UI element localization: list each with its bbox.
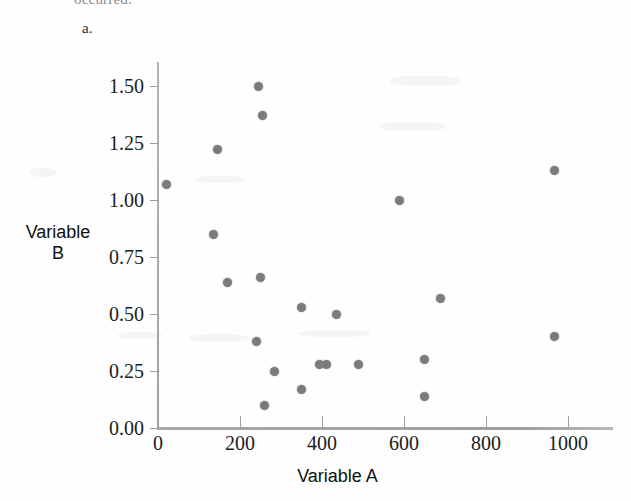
data-point — [260, 401, 269, 410]
x-tick-label: 200 — [205, 432, 275, 455]
x-tick-mark — [240, 416, 241, 428]
y-tick-mark — [150, 86, 158, 87]
scan-speckle — [390, 76, 460, 86]
data-point — [270, 367, 279, 376]
y-axis-line — [157, 62, 159, 429]
y-axis-title: Variable B — [6, 222, 110, 263]
y-axis-title-line-2: B — [6, 243, 110, 264]
data-point — [297, 303, 306, 312]
x-tick-label: 0 — [123, 432, 193, 455]
y-tick-mark — [150, 143, 158, 144]
data-point — [420, 355, 429, 364]
y-tick-mark — [150, 428, 158, 429]
x-tick-mark — [486, 416, 487, 428]
data-point — [297, 385, 306, 394]
y-tick-mark — [150, 314, 158, 315]
scan-speckle — [30, 168, 56, 177]
x-tick-mark — [322, 416, 323, 428]
data-point — [354, 360, 363, 369]
data-point — [213, 145, 222, 154]
data-point — [550, 166, 559, 175]
scatter-plot: 0.000.250.500.751.001.251.50 02004006008… — [0, 0, 631, 501]
x-axis-line — [157, 427, 613, 430]
y-tick-label: 1.00 — [80, 189, 144, 212]
scan-speckle — [300, 330, 370, 337]
y-axis-title-line-1: Variable — [6, 222, 110, 243]
y-tick-label: 0.25 — [80, 360, 144, 383]
scan-speckle — [118, 332, 162, 339]
scan-speckle — [380, 122, 446, 131]
x-tick-mark — [404, 416, 405, 428]
scan-speckle — [196, 176, 244, 183]
x-tick-mark — [568, 416, 569, 428]
y-tick-label: 1.50 — [80, 75, 144, 98]
data-point — [436, 294, 445, 303]
data-point — [332, 310, 341, 319]
data-point — [322, 360, 331, 369]
data-point — [256, 273, 265, 282]
y-tick-mark — [150, 200, 158, 201]
scatter-plot-page: occurred. a. 0.000.250.500.751.001.251.5… — [0, 0, 631, 501]
data-point — [162, 180, 171, 189]
data-point — [420, 392, 429, 401]
y-tick-label: 1.25 — [80, 132, 144, 155]
x-tick-label: 1000 — [533, 432, 603, 455]
data-point — [550, 332, 559, 341]
data-point — [223, 278, 232, 287]
x-tick-label: 400 — [287, 432, 357, 455]
data-point — [254, 82, 263, 91]
data-point — [395, 196, 404, 205]
scan-speckle — [190, 334, 248, 342]
y-tick-mark — [150, 371, 158, 372]
x-axis-title: Variable A — [0, 466, 631, 487]
data-point — [252, 337, 261, 346]
data-point — [209, 230, 218, 239]
x-tick-label: 600 — [369, 432, 439, 455]
data-point — [258, 111, 267, 120]
x-tick-label: 800 — [451, 432, 521, 455]
y-tick-label: 0.50 — [80, 303, 144, 326]
y-tick-mark — [150, 257, 158, 258]
